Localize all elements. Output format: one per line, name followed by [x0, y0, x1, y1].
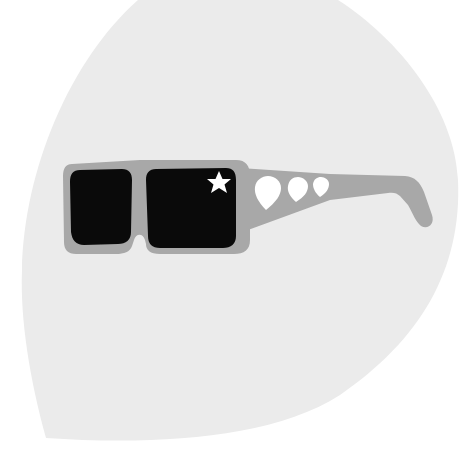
sunglasses-illustration — [0, 0, 464, 474]
left-lens — [70, 169, 132, 245]
illustration-canvas: sunglasses — [0, 0, 464, 474]
